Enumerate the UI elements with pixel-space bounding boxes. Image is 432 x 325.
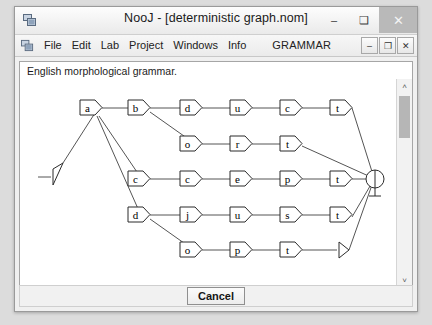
automaton-graph: a b d u c t o r t c c e p t d (21, 81, 389, 285)
node-label: b (133, 102, 139, 114)
node-label: c (285, 102, 290, 114)
maximize-button[interactable]: ❑ (349, 7, 379, 33)
node-label: d (185, 102, 191, 114)
graph-node-p2[interactable]: p (230, 242, 252, 257)
mdi-minimize-button[interactable]: – (361, 37, 378, 54)
menu-item-lab[interactable]: Lab (96, 36, 124, 55)
node-label: u (235, 102, 241, 114)
menu-mode-grammar: GRAMMAR (267, 36, 336, 55)
mdi-restore-button[interactable]: ❐ (379, 37, 396, 54)
graph-canvas[interactable]: a b d u c t o r t c c e p t d (21, 81, 389, 285)
graph-node-t5[interactable]: t (280, 242, 302, 257)
minimize-button[interactable]: – (319, 7, 349, 33)
nooj-application-window: NooJ - [deterministic graph.nom] – ❑ ✕ F… (14, 6, 418, 312)
mdi-app-icon (21, 39, 34, 52)
node-label: d (133, 209, 139, 221)
menu-item-windows[interactable]: Windows (168, 36, 223, 55)
graph-node-c1[interactable]: c (280, 100, 302, 115)
node-label: p (235, 244, 241, 256)
grammar-caption: English morphological grammar. (27, 65, 177, 77)
node-label: j (185, 209, 189, 221)
node-label: e (235, 173, 240, 185)
graph-node-j[interactable]: j (180, 207, 202, 222)
graph-node-o2[interactable]: o (180, 242, 202, 257)
final-state-circle (366, 170, 384, 196)
vertical-scroll-thumb[interactable] (399, 96, 410, 138)
graph-node-t1[interactable]: t (330, 100, 352, 115)
graph-node-o1[interactable]: o (180, 136, 202, 151)
node-label: t (336, 209, 339, 221)
title-bar[interactable]: NooJ - [deterministic graph.nom] – ❑ ✕ (15, 7, 417, 35)
scroll-up-icon[interactable]: ˄ (397, 79, 412, 93)
node-label: o (185, 138, 191, 150)
graph-node-r[interactable]: r (230, 136, 252, 151)
node-label: t (286, 244, 289, 256)
node-label: t (336, 173, 339, 185)
graph-edges (38, 108, 374, 258)
graph-node-s[interactable]: s (280, 207, 302, 222)
menu-item-project[interactable]: Project (124, 36, 168, 55)
graph-node-a[interactable]: a (80, 100, 102, 115)
node-label: u (235, 209, 241, 221)
node-label: t (286, 138, 289, 150)
mdi-close-button[interactable]: ✕ (397, 37, 414, 54)
node-label: o (185, 244, 191, 256)
mdi-window-buttons: – ❐ ✕ (361, 37, 414, 54)
node-label: s (285, 209, 289, 221)
node-label: p (285, 173, 291, 185)
close-button[interactable]: ✕ (379, 7, 417, 33)
graph-node-u1[interactable]: u (230, 100, 252, 115)
graph-node-t3[interactable]: t (330, 171, 352, 186)
bottom-toolbar: Cancel (19, 285, 413, 307)
cancel-button[interactable]: Cancel (187, 287, 245, 305)
graph-node-b[interactable]: b (128, 100, 150, 115)
graph-node-c3[interactable]: c (180, 171, 202, 186)
graph-node-d2[interactable]: d (128, 207, 150, 222)
graph-node-c2[interactable]: c (128, 171, 150, 186)
menu-item-info[interactable]: Info (223, 36, 251, 55)
node-label: a (85, 102, 90, 114)
screen-root: NooJ - [deterministic graph.nom] – ❑ ✕ F… (0, 0, 432, 325)
node-label: r (236, 138, 240, 150)
graph-node-t2[interactable]: t (280, 136, 302, 151)
window-buttons: – ❑ ✕ (319, 7, 417, 34)
menu-item-edit[interactable]: Edit (67, 36, 96, 55)
node-label: c (185, 173, 190, 185)
graph-node-p1[interactable]: p (280, 171, 302, 186)
menu-item-file[interactable]: File (39, 36, 67, 55)
node-label: c (133, 173, 138, 185)
graph-node-d1[interactable]: d (180, 100, 202, 115)
graph-node-t4[interactable]: t (330, 207, 352, 222)
vertical-scrollbar[interactable]: ˄ ˅ (396, 79, 412, 287)
graph-document-area: English morphological grammar. (19, 61, 413, 305)
node-label: t (336, 102, 339, 114)
menu-bar: File Edit Lab Project Windows Info GRAMM… (15, 35, 417, 57)
graph-node-e[interactable]: e (230, 171, 252, 186)
graph-node-u2[interactable]: u (230, 207, 252, 222)
